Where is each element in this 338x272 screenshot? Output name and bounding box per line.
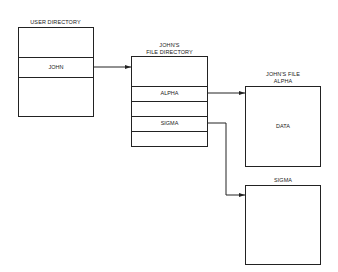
connector-lines	[0, 0, 338, 272]
arrow-sigma-to-file	[208, 123, 245, 195]
